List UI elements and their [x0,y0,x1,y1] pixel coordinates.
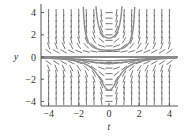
slope-segment [92,37,96,43]
slope-segment [61,50,67,53]
slope-segment [159,50,165,54]
x-tick-label: −2 [73,108,84,119]
x-tick-label: −4 [43,108,54,119]
y-tick-label: 4 [31,7,36,18]
x-tick-label: 0 [107,108,112,119]
slope-segment [84,43,89,48]
slope-segment [98,67,105,69]
slope-segment [68,50,75,53]
slope-segment [99,38,105,43]
slope-segment [136,50,143,52]
y-axis-label: y [13,51,19,62]
slope-segment [114,71,120,76]
slope-segment [166,60,172,64]
slope-field-chart: −4−2024−4−2024ty [0,0,185,137]
slope-segment [46,60,52,64]
y-tick-label: 2 [31,29,36,40]
slope-segment [94,9,95,16]
y-tick-label: −2 [25,74,36,85]
slope-segment [129,43,134,48]
slope-segment [143,61,150,64]
slope-segment [121,51,128,52]
slope-segment [99,71,105,76]
y-tick-label: −4 [25,96,36,107]
slope-segment [128,50,135,52]
slope-segment [137,65,141,71]
slope-segment [53,61,59,65]
slope-segment [151,61,157,64]
slope-segment [151,50,157,53]
slope-segment [98,51,105,52]
slope-segment [46,49,52,53]
slope-segment [137,43,141,49]
slope-segment [124,9,125,16]
x-axis-label: t [108,121,111,132]
slope-segment [113,45,120,47]
x-tick-label: 2 [137,108,142,119]
slope-segment [90,51,97,52]
slope-segment [77,43,81,49]
slope-segment [75,50,82,52]
slope-segment [122,37,126,43]
slope-segment [143,50,150,53]
slope-segment [61,61,67,64]
slope-segment [166,49,172,53]
slope-segment [159,61,165,65]
x-tick-label: 4 [167,108,172,119]
slope-segment [98,45,105,47]
y-tick-label: 0 [31,52,36,63]
slope-segment [114,38,120,43]
slope-segment [113,51,120,52]
slope-segment [77,65,81,71]
slope-segment [53,50,59,54]
slope-segment [68,61,75,64]
slope-segment [113,67,120,69]
slope-segment [83,50,90,52]
